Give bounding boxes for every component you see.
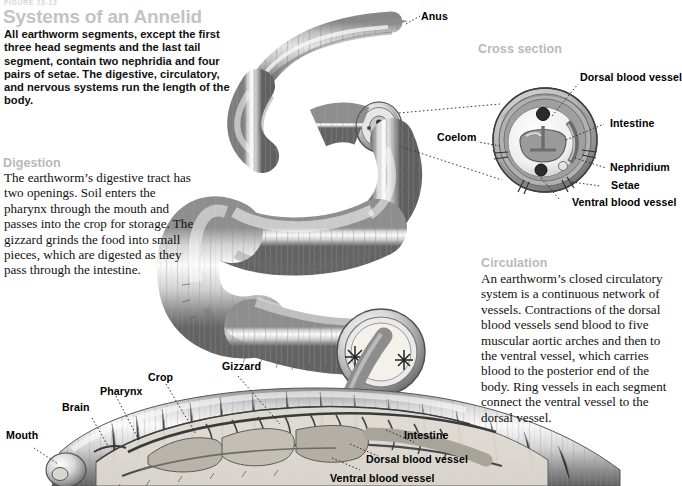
- cross-section-diagram: [493, 88, 597, 194]
- label-ventral-blood-vessel-cs: Ventral blood vessel: [572, 196, 676, 208]
- label-pharynx: Pharynx: [100, 385, 143, 397]
- label-intestine-worm: Intestine: [404, 429, 448, 441]
- worm-main-body: [182, 140, 400, 372]
- intestine-shape: [520, 130, 566, 163]
- worm-cut-face-small: [318, 102, 402, 152]
- label-intestine-cs: Intestine: [610, 117, 654, 129]
- gizzard-shape: [296, 426, 368, 463]
- label-setae-cs: Setae: [611, 179, 640, 191]
- pharynx-shape: [148, 438, 223, 472]
- label-dorsal-blood-vessel-worm: Dorsal blood vessel: [366, 453, 468, 465]
- label-mouth: Mouth: [6, 429, 38, 441]
- section-heading-circulation: Circulation: [481, 256, 547, 270]
- intro-paragraph: All earthworm segments, except the first…: [4, 28, 236, 108]
- page-title: Systems of an Annelid: [3, 6, 202, 28]
- section-heading-cross-section: Cross section: [478, 42, 562, 56]
- label-ventral-blood-vessel-worm: Ventral blood vessel: [330, 472, 434, 484]
- ventral-vessel-dot: [535, 164, 547, 176]
- nephridium-shape: [568, 122, 576, 162]
- setae-star-left: [345, 346, 365, 368]
- crop-shape: [222, 429, 294, 466]
- setae-bristles: [494, 150, 596, 194]
- setae-star-right: [395, 350, 413, 370]
- worm-upper-bend: [237, 86, 274, 156]
- brain-shape: [94, 446, 126, 452]
- label-coelom-cs: Coelom: [437, 131, 476, 143]
- section-body-circulation: An earthworm’s closed circulatory system…: [481, 271, 673, 425]
- mouth-shape: [46, 453, 86, 486]
- label-anus: Anus: [421, 10, 448, 22]
- label-dorsal-blood-vessel-cs: Dorsal blood vessel: [580, 71, 682, 83]
- section-body-digestion: The earthworm’s digestive tract has two …: [4, 170, 200, 278]
- label-nephridium-cs: Nephridium: [610, 161, 670, 173]
- label-gizzard: Gizzard: [222, 360, 261, 372]
- label-crop: Crop: [148, 371, 173, 383]
- section-heading-digestion: Digestion: [3, 156, 61, 170]
- dorsal-vessel-dot: [537, 108, 550, 121]
- worm-cut-face-head: [337, 309, 425, 395]
- worm-tail-segment: [258, 20, 408, 94]
- label-brain: Brain: [62, 401, 90, 413]
